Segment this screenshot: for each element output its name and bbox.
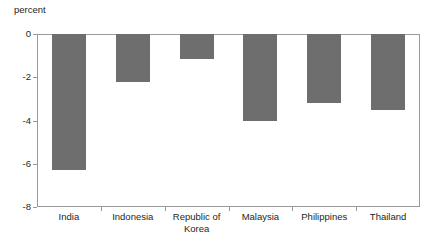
x-axis-category-label: Philippines <box>292 211 356 223</box>
bar <box>180 34 214 59</box>
y-axis-tick-mark <box>33 121 37 122</box>
bar <box>371 34 405 110</box>
x-axis-category-label: Indonesia <box>101 211 165 223</box>
y-axis-tick-label: 0 <box>26 29 31 39</box>
y-axis-line <box>37 34 38 207</box>
y-axis-tick-mark <box>33 77 37 78</box>
y-axis-tick-mark <box>33 34 37 35</box>
bar <box>52 34 86 170</box>
y-axis-title: percent <box>14 4 46 16</box>
bar <box>243 34 277 121</box>
x-axis-category-label: Republic of Korea <box>165 211 229 234</box>
y-axis-tick-mark <box>33 164 37 165</box>
bar <box>116 34 150 82</box>
zero-baseline <box>37 34 420 35</box>
x-axis-category-label: Thailand <box>356 211 420 223</box>
x-axis-category-label: India <box>37 211 101 223</box>
y-axis-tick-mark <box>33 207 37 208</box>
y-axis-tick-label: -4 <box>23 116 31 126</box>
bar <box>307 34 341 103</box>
bar-chart: percent 0-2-4-6-8 IndiaIndonesiaRepublic… <box>0 0 432 248</box>
x-axis-category-labels: IndiaIndonesiaRepublic of KoreaMalaysiaP… <box>37 211 420 245</box>
y-axis-tick-label: -2 <box>23 72 31 82</box>
y-axis-tick-label: -6 <box>23 159 31 169</box>
plot-area: 0-2-4-6-8 <box>37 34 420 207</box>
x-axis-category-label: Malaysia <box>229 211 293 223</box>
y-axis-tick-label: -8 <box>23 202 31 212</box>
plot-right-border <box>419 34 420 207</box>
